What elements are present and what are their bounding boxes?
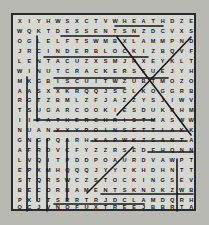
grid-cell: W xyxy=(15,27,25,37)
grid-cell: D xyxy=(53,27,63,37)
grid-cell: D xyxy=(186,37,196,47)
grid-cell: U xyxy=(34,106,44,116)
grid-cell: J xyxy=(120,57,130,67)
grid-cell: C xyxy=(91,116,101,126)
grid-cell: S xyxy=(82,37,92,47)
grid-cell: V xyxy=(186,96,196,106)
grid-cell: N xyxy=(110,126,120,136)
grid-cell: N xyxy=(148,176,158,186)
grid-cell: I xyxy=(25,17,35,27)
grid-cell: A xyxy=(25,86,35,96)
grid-cell: P xyxy=(177,156,187,166)
grid-cell: S xyxy=(110,86,120,96)
grid-cell: I xyxy=(15,116,25,126)
grid-cell: M xyxy=(110,57,120,67)
grid-cell: I xyxy=(120,116,130,126)
grid-cell: T xyxy=(91,17,101,27)
grid-cell: N xyxy=(129,27,139,37)
grid-cell: P xyxy=(25,166,35,176)
grid-cell: T xyxy=(101,76,111,86)
grid-cell: K xyxy=(167,57,177,67)
grid-cell: B xyxy=(186,186,196,196)
grid-cell: B xyxy=(186,86,196,96)
grid-cell: Y xyxy=(101,166,111,176)
grid-cell: N xyxy=(186,146,196,156)
grid-cell: V xyxy=(101,17,111,27)
grid-cell: D xyxy=(72,156,82,166)
grid-cell: G xyxy=(34,76,44,86)
grid-cell: I xyxy=(110,106,120,116)
grid-cell: K xyxy=(34,27,44,37)
grid-cell: W xyxy=(91,37,101,47)
grid-cell: B xyxy=(148,205,158,211)
grid-cell: N xyxy=(177,37,187,47)
grid-cell: I xyxy=(25,116,35,126)
grid-cell: F xyxy=(72,205,82,211)
grid-cell: T xyxy=(101,176,111,186)
grid-cell: A xyxy=(139,37,149,47)
grid-cell: T xyxy=(120,166,130,176)
grid-cell: E xyxy=(15,166,25,176)
grid-cell: T xyxy=(177,136,187,146)
grid-cell: M xyxy=(158,76,168,86)
grid-cell: U xyxy=(148,67,158,77)
grid-cell: A xyxy=(34,126,44,136)
grid-cell: Z xyxy=(44,96,54,106)
grid-cell: I xyxy=(53,76,63,86)
grid-cell: F xyxy=(63,37,73,47)
grid-cell: E xyxy=(110,67,120,77)
grid-cell: L xyxy=(15,57,25,67)
grid-cell: T xyxy=(148,76,158,86)
grid-cell: G xyxy=(158,176,168,186)
grid-cell: S xyxy=(129,67,139,77)
grid-cell: T xyxy=(177,205,187,211)
grid-cell: Y xyxy=(158,57,168,67)
grid-cell: S xyxy=(82,27,92,37)
grid-cell: M xyxy=(101,37,111,47)
grid-cell: Q xyxy=(91,86,101,96)
grid-cell: V xyxy=(167,27,177,37)
grid-cell: J xyxy=(91,166,101,176)
grid-cell: E xyxy=(177,176,187,186)
grid-cell: Q xyxy=(34,156,44,166)
grid-cell: O xyxy=(15,37,25,47)
grid-cell: E xyxy=(120,205,130,211)
grid-cell: C xyxy=(34,186,44,196)
grid-cell: H xyxy=(82,136,92,146)
grid-cell: A xyxy=(44,116,54,126)
grid-cell: C xyxy=(82,17,92,27)
grid-cell: D xyxy=(139,156,149,166)
grid-cell: Q xyxy=(167,146,177,156)
grid-cell: O xyxy=(110,176,120,186)
grid-cell: T xyxy=(110,186,120,196)
grid-cell: Z xyxy=(177,17,187,27)
grid-cell: S xyxy=(148,136,158,146)
grid-cell: H xyxy=(120,17,130,27)
grid-cell: C xyxy=(91,67,101,77)
grid-cell: D xyxy=(44,146,54,156)
grid-cell: X xyxy=(120,37,130,47)
grid-cell: Z xyxy=(139,27,149,37)
grid-cell: K xyxy=(101,106,111,116)
grid-cell: S xyxy=(91,176,101,186)
grid-cell: A xyxy=(158,136,168,146)
grid-cell: R xyxy=(72,136,82,146)
grid-cell: W xyxy=(110,17,120,27)
grid-cell: Z xyxy=(167,186,177,196)
grid-cell: P xyxy=(91,156,101,166)
grid-cell: E xyxy=(158,67,168,77)
grid-cell: O xyxy=(82,106,92,116)
grid-cell: A xyxy=(186,136,196,146)
grid-cell: J xyxy=(15,47,25,57)
grid-cell: D xyxy=(82,156,92,166)
grid-cell: R xyxy=(15,96,25,106)
grid-cell: K xyxy=(139,86,149,96)
grid-cell: T xyxy=(139,116,149,126)
grid-cell: X xyxy=(63,126,73,136)
grid-cell: T xyxy=(44,57,54,67)
grid-cell: E xyxy=(72,47,82,57)
grid-cell: O xyxy=(101,156,111,166)
grid-cell: O xyxy=(148,86,158,96)
grid-cell: W xyxy=(167,156,177,166)
grid-cell: B xyxy=(53,96,63,106)
